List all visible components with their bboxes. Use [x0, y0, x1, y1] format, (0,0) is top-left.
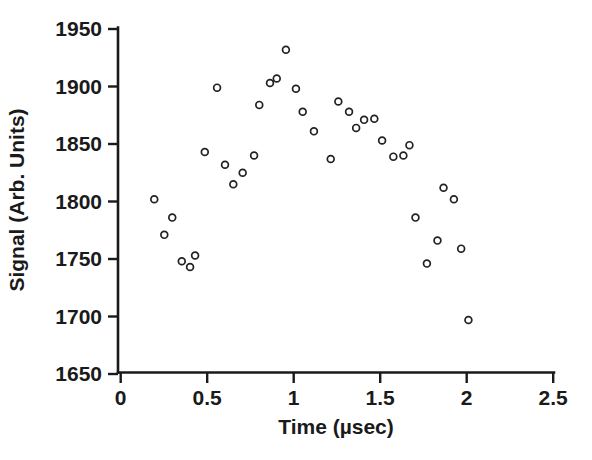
data-point [361, 116, 368, 123]
plot-canvas: 1650170017501800185019001950 00.511.522.… [0, 0, 592, 460]
data-point [151, 196, 158, 203]
data-point [465, 317, 472, 324]
data-point [273, 75, 280, 82]
y-tick-label: 1700 [55, 305, 102, 328]
data-point [458, 245, 465, 252]
y-tick-label: 1800 [55, 190, 102, 213]
x-tick-label: 0 [115, 386, 127, 409]
y-tick-group: 1650170017501800185019001950 [55, 17, 118, 385]
data-point [424, 260, 431, 267]
data-point [412, 214, 419, 221]
x-axis-title: Time (µsec) [278, 415, 394, 438]
data-point [267, 80, 274, 87]
y-tick-label: 1650 [55, 362, 102, 385]
data-point [187, 264, 194, 271]
data-point [440, 184, 447, 191]
y-tick-label: 1900 [55, 75, 102, 98]
data-point [311, 128, 318, 135]
data-point [178, 258, 185, 265]
data-point [256, 102, 263, 109]
data-point [371, 115, 378, 122]
data-point [346, 108, 353, 115]
y-tick-label: 1750 [55, 247, 102, 270]
scatter-plot-figure: 1650170017501800185019001950 00.511.522.… [0, 0, 592, 460]
data-point [451, 196, 458, 203]
x-tick-label: 1.5 [366, 386, 396, 409]
data-point [251, 152, 258, 159]
data-point [299, 108, 306, 115]
data-point [335, 98, 342, 105]
x-tick-label: 0.5 [193, 386, 223, 409]
data-point [214, 84, 221, 91]
data-point [230, 181, 237, 188]
data-point [161, 231, 168, 238]
data-point [293, 85, 300, 92]
y-axis-title: Signal (Arb. Units) [5, 108, 28, 291]
y-tick-label: 1950 [55, 17, 102, 40]
data-point [353, 125, 360, 132]
x-tick-label: 2 [461, 386, 473, 409]
x-tick-label: 2.5 [539, 386, 569, 409]
data-point [327, 156, 334, 163]
data-point [283, 46, 290, 53]
data-point [406, 142, 413, 149]
y-tick-label: 1850 [55, 132, 102, 155]
data-point [379, 137, 386, 144]
data-point [390, 153, 397, 160]
data-point [434, 237, 441, 244]
x-tick-group: 00.511.522.5 [115, 373, 568, 410]
data-point [239, 169, 246, 176]
data-point [201, 149, 208, 156]
x-tick-label: 1 [288, 386, 300, 409]
data-point [400, 152, 407, 159]
data-point [169, 214, 176, 221]
data-point [222, 161, 229, 168]
data-point [192, 252, 199, 259]
data-point-group [151, 46, 472, 323]
